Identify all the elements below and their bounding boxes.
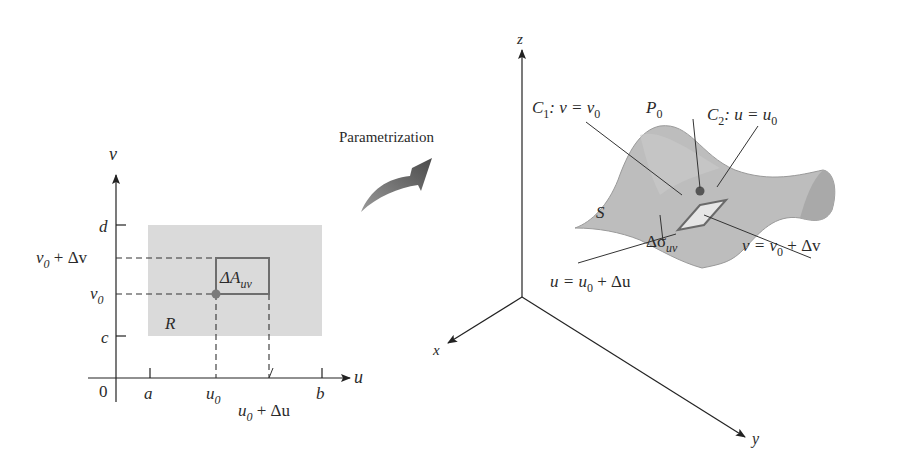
y-axis [522,297,745,437]
surface-label-S: S [596,203,605,222]
label-u-equals-u0-plus-du: u = u0 + Δu [550,272,631,295]
y-axis-label: y [750,430,760,448]
parametrization-arrow: Parametrization [339,129,434,212]
tick-label-d: d [99,217,108,236]
v-axis-label: v [109,144,117,164]
label-v-equals-v0-plus-dv: v = v0 + Δv [742,236,821,259]
origin-label: 0 [99,382,108,401]
xyz-surface-diagram: z x y C1: v = v0 P0 C2: u = u0 S Δσuv v … [432,31,835,448]
curve-C2-label: C2: u = u0 [707,105,777,128]
tick-label-b: b [316,384,325,403]
tick-label-c: c [101,328,109,347]
region-label-R: R [164,314,176,333]
point-u0-v0 [212,290,221,299]
tick-label-u0-plus-du: u0 + Δu [238,401,291,424]
leader-u0du [269,368,273,378]
tick-label-u0: u0 [206,384,221,407]
curved-arrow-icon [361,158,432,212]
u-axis-label: u [354,367,363,387]
z-axis-label: z [516,31,523,47]
tick-label-v0-plus-dv: v0 + Δv [36,248,88,271]
point-P0-label: P0 [645,98,662,121]
parametrization-label: Parametrization [339,129,434,145]
tick-label-v0: v0 [90,284,104,307]
x-axis [448,297,522,343]
tick-label-a: a [144,384,153,403]
x-axis-label: x [432,342,440,358]
curve-C1-label: C1: v = v0 [532,98,600,121]
uv-plane-diagram: v u 0 a u0 b u0 + Δu d c v0 v0 + Δv R ΔA… [36,144,363,424]
